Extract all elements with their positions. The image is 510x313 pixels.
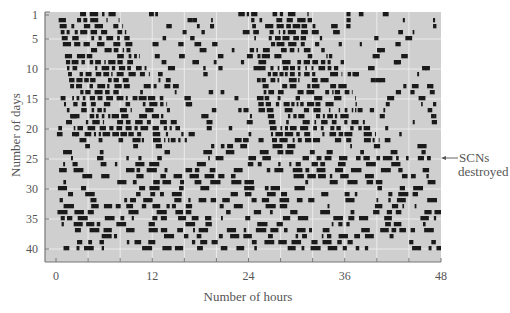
y-tick-label: 10: [26, 62, 38, 76]
arrow-left-icon: [441, 156, 446, 160]
x-axis-label: Number of hours: [204, 289, 293, 304]
annotation-line1: SCNs: [459, 150, 489, 165]
y-tick-label: 25: [26, 152, 38, 166]
x-tick-label: 36: [339, 269, 351, 283]
x-tick-label: 12: [146, 269, 158, 283]
y-tick-label: 40: [26, 242, 38, 256]
actogram-chart: 1510152025303540 012243648 Number of hou…: [0, 0, 510, 313]
x-tick-label: 0: [53, 269, 59, 283]
x-tick-label: 48: [435, 269, 447, 283]
annotation-line2: destroyed: [458, 164, 509, 179]
y-tick-label: 30: [26, 182, 38, 196]
y-tick-label: 20: [26, 122, 38, 136]
y-tick-label: 5: [32, 32, 38, 46]
x-tick-labels: 012243648: [53, 269, 447, 283]
y-tick-label: 15: [26, 92, 38, 106]
y-tick-label: 1: [32, 8, 38, 22]
scn-annotation: SCNs destroyed: [441, 150, 509, 179]
y-axis-label: Number of days: [8, 93, 23, 177]
x-tick-label: 24: [243, 269, 255, 283]
y-tick-label: 35: [26, 212, 38, 226]
